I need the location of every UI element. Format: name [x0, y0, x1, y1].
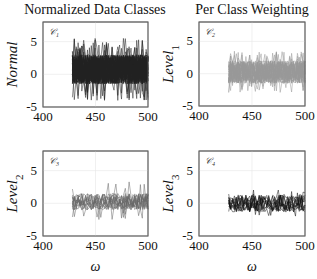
- y-tick-label: 5: [31, 34, 38, 49]
- x-tick-label: 500: [138, 238, 158, 253]
- x-tick-label: 450: [86, 238, 106, 253]
- title-right: Per Class Weighting: [195, 2, 309, 17]
- y-tick-label: 0: [187, 195, 194, 210]
- y-axis-label: Level3: [160, 174, 181, 213]
- y-tick-label: 5: [187, 33, 194, 48]
- x-axis-label: ω: [247, 259, 257, 274]
- y-tick-label: 0: [31, 66, 38, 81]
- panels: 400450500-505𝒞1Normal400450500-505𝒞2Leve…: [4, 22, 315, 274]
- y-tick-label: -5: [182, 98, 193, 113]
- y-axis-label: Level2: [4, 175, 25, 214]
- title-left: Normalized Data Classes: [24, 2, 166, 17]
- y-axis-label: Normal: [4, 42, 20, 89]
- y-tick-label: -5: [182, 228, 193, 243]
- panel-top-right: 400450500-505𝒞2Level1: [160, 22, 315, 123]
- y-tick-label: 5: [187, 163, 194, 178]
- x-tick-label: 450: [242, 108, 262, 123]
- x-tick-label: 500: [295, 238, 315, 253]
- x-tick-label: 500: [295, 108, 315, 123]
- y-axis-label: Level1: [160, 45, 181, 84]
- x-tick-label: 450: [242, 238, 262, 253]
- figure: Normalized Data Classes Per Class Weight…: [0, 0, 317, 279]
- panel-bottom-right: 400450500-505𝒞4Level3ω: [160, 151, 315, 274]
- y-tick-label: 0: [31, 195, 38, 210]
- x-axis-label: ω: [91, 259, 101, 274]
- panel-bottom-left: 400450500-505𝒞3Level2ω: [4, 151, 158, 274]
- y-tick-label: -5: [26, 228, 37, 243]
- y-tick-label: -5: [26, 99, 37, 114]
- y-tick-label: 0: [187, 66, 194, 81]
- x-tick-label: 450: [86, 109, 106, 124]
- x-tick-label: 500: [138, 109, 158, 124]
- y-tick-label: 5: [31, 163, 38, 178]
- panel-top-left: 400450500-505𝒞1Normal: [4, 22, 158, 124]
